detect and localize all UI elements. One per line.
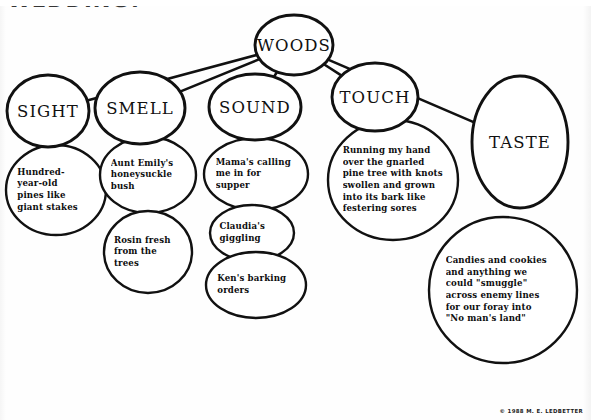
bubble-map-canvas: Hundred- year-old pines like giant stake… bbox=[0, 0, 591, 420]
detail-text-sound-1: Mama's calling me in for supper bbox=[216, 157, 297, 192]
detail-text-sound-3: Ken's barking orders bbox=[217, 273, 295, 296]
detail-text-sight-1: Hundred- year-old pines like giant stake… bbox=[17, 167, 95, 213]
connector-woods-to-touch bbox=[324, 64, 342, 75]
detail-text-touch-1: Running my hand over the gnarled pine tr… bbox=[343, 145, 444, 215]
center-label-woods: WOODS bbox=[257, 36, 331, 55]
detail-text-sound-1-wrap: Mama's calling me in for supper bbox=[216, 143, 297, 204]
detail-text-smell-1-wrap: Aunt Emily's honeysuckle bush bbox=[111, 143, 185, 208]
detail-text-sound-3-wrap: Ken's barking orders bbox=[217, 257, 295, 313]
worksheet-page: WEDDING? Hundred- year-old pines like gi… bbox=[0, 0, 591, 420]
bubbles-layer: Hundred- year-old pines like giant stake… bbox=[6, 15, 577, 363]
detail-text-sound-2-wrap: Claudia's giggling bbox=[219, 209, 284, 257]
category-label-taste: TASTE bbox=[489, 133, 551, 152]
category-label-sight: SIGHT bbox=[17, 102, 79, 121]
copyright-notice: © 1988 M. E. LEDBETTER bbox=[500, 408, 583, 414]
detail-text-sound-2: Claudia's giggling bbox=[219, 221, 284, 244]
detail-text-smell-2: Rosin fresh from the trees bbox=[114, 235, 182, 270]
category-label-smell: SMELL bbox=[106, 99, 174, 118]
category-label-touch: TOUCH bbox=[340, 88, 411, 107]
detail-text-smell-1: Aunt Emily's honeysuckle bush bbox=[111, 158, 185, 193]
detail-text-taste-1-wrap: Candies and cookies and anything we coul… bbox=[446, 228, 561, 352]
detail-text-touch-1-wrap: Running my hand over the gnarled pine tr… bbox=[343, 129, 444, 231]
detail-text-taste-1: Candies and cookies and anything we coul… bbox=[446, 255, 561, 325]
category-label-sound: SOUND bbox=[219, 98, 291, 117]
detail-text-smell-2-wrap: Rosin fresh from the trees bbox=[114, 217, 182, 287]
detail-text-sight-1-wrap: Hundred- year-old pines like giant stake… bbox=[17, 152, 95, 229]
